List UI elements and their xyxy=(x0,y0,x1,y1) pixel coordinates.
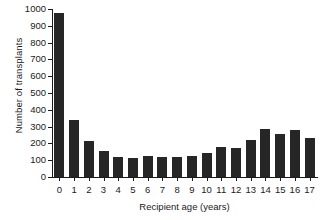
y-tick-label: 600 xyxy=(10,71,46,81)
x-tick-mark xyxy=(133,177,134,181)
bar xyxy=(275,134,285,178)
y-tick-label: 300 xyxy=(10,122,46,132)
y-tick-mark xyxy=(48,110,52,111)
bar xyxy=(128,158,138,177)
bar xyxy=(172,157,182,177)
x-axis-title: Recipient age (years) xyxy=(52,201,317,212)
bar-chart: Number of transplants 010020030040050060… xyxy=(0,0,333,220)
y-tick-mark xyxy=(48,160,52,161)
y-tick-label: 500 xyxy=(10,88,46,98)
y-tick-label: 700 xyxy=(10,54,46,64)
y-tick-mark xyxy=(48,26,52,27)
bar xyxy=(290,130,300,177)
bar xyxy=(143,156,153,177)
bar xyxy=(69,120,79,177)
x-tick-mark xyxy=(265,177,266,181)
x-tick-mark xyxy=(89,177,90,181)
bar xyxy=(216,147,226,177)
plot-area: 01002003004005006007008009001000 0123456… xyxy=(52,9,317,177)
y-tick-label: 900 xyxy=(10,21,46,31)
x-tick-mark xyxy=(207,177,208,181)
bar xyxy=(84,141,94,177)
x-axis-line xyxy=(52,177,318,178)
y-tick-mark xyxy=(48,93,52,94)
bar xyxy=(157,157,167,177)
y-tick-mark xyxy=(48,76,52,77)
y-tick-label: 800 xyxy=(10,38,46,48)
y-tick-label: 200 xyxy=(10,138,46,148)
x-tick-mark xyxy=(59,177,60,181)
x-tick-mark xyxy=(280,177,281,181)
x-tick-mark xyxy=(104,177,105,181)
bar xyxy=(305,138,315,177)
bar xyxy=(231,148,241,177)
x-tick-mark xyxy=(148,177,149,181)
x-tick-mark xyxy=(192,177,193,181)
x-tick-mark xyxy=(118,177,119,181)
bar xyxy=(260,129,270,177)
bar xyxy=(54,13,64,177)
y-axis-line xyxy=(52,9,53,178)
x-tick-mark xyxy=(236,177,237,181)
x-tick-mark xyxy=(177,177,178,181)
y-tick-mark xyxy=(48,59,52,60)
x-tick-mark xyxy=(295,177,296,181)
bar xyxy=(187,156,197,177)
y-tick-mark xyxy=(48,177,52,178)
x-tick-mark xyxy=(221,177,222,181)
x-tick-mark xyxy=(310,177,311,181)
bar xyxy=(99,151,109,177)
y-tick-mark xyxy=(48,9,52,10)
x-tick-mark xyxy=(251,177,252,181)
y-tick-mark xyxy=(48,127,52,128)
bar xyxy=(113,157,123,177)
x-tick-label: 17 xyxy=(300,185,320,195)
y-tick-mark xyxy=(48,143,52,144)
y-tick-label: 400 xyxy=(10,105,46,115)
x-tick-mark xyxy=(74,177,75,181)
y-tick-label: 1000 xyxy=(10,4,46,14)
y-tick-label: 0 xyxy=(10,172,46,182)
bar xyxy=(202,153,212,177)
y-tick-mark xyxy=(48,43,52,44)
bar xyxy=(246,140,256,177)
y-tick-label: 100 xyxy=(10,155,46,165)
x-tick-mark xyxy=(162,177,163,181)
